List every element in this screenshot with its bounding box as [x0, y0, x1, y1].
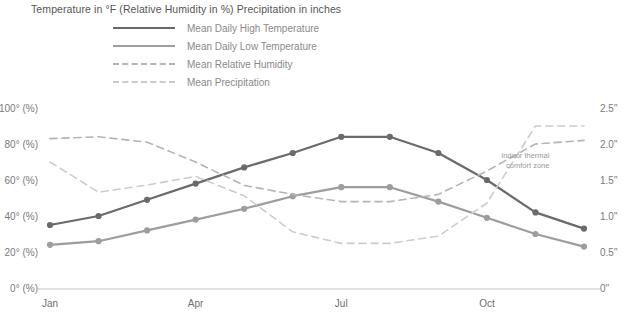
- data-point-high-temp[interactable]: [241, 164, 247, 170]
- chart-root: Temperature in °F (Relative Humidity in …: [0, 0, 635, 329]
- data-point-high-temp[interactable]: [144, 197, 150, 203]
- data-point-low-temp[interactable]: [241, 206, 247, 212]
- y-axis-left-tick-label: 60° (%): [5, 175, 38, 186]
- data-point-low-temp[interactable]: [387, 184, 393, 190]
- data-point-high-temp[interactable]: [581, 226, 587, 232]
- data-point-low-temp[interactable]: [338, 184, 344, 190]
- data-point-high-temp[interactable]: [47, 222, 53, 228]
- y-axis-right-tick-label: 0": [600, 283, 610, 294]
- data-point-low-temp[interactable]: [47, 242, 53, 248]
- data-point-high-temp[interactable]: [435, 150, 441, 156]
- annotation-indoor-thermal-comfort-zone: indoor thermal comfort zone: [487, 151, 549, 170]
- y-axis-right-tick-label: 2.0": [600, 139, 618, 150]
- data-point-low-temp[interactable]: [435, 199, 441, 205]
- data-point-high-temp[interactable]: [532, 209, 538, 215]
- y-axis-left-tick-label: 40° (%): [5, 211, 38, 222]
- y-axis-left-tick-label: 0° (%): [10, 283, 38, 294]
- annotation-line-1: indoor thermal: [487, 151, 549, 161]
- data-point-high-temp[interactable]: [193, 181, 199, 187]
- y-axis-right-tick-label: 1.0": [600, 211, 618, 222]
- data-point-high-temp[interactable]: [338, 134, 344, 140]
- data-point-high-temp[interactable]: [387, 134, 393, 140]
- data-point-high-temp[interactable]: [290, 150, 296, 156]
- x-axis-tick-label: Jul: [335, 298, 348, 309]
- data-point-low-temp[interactable]: [193, 217, 199, 223]
- data-point-low-temp[interactable]: [484, 215, 490, 221]
- series-line-precipitation: [50, 126, 584, 243]
- data-point-high-temp[interactable]: [95, 213, 101, 219]
- x-axis-tick-label: Jan: [42, 298, 58, 309]
- x-axis-tick-label: Apr: [188, 298, 204, 309]
- y-axis-right-tick-label: 0.5": [600, 247, 618, 258]
- y-axis-left-tick-label: 100° (%): [0, 103, 38, 114]
- data-point-low-temp[interactable]: [581, 244, 587, 250]
- x-axis-tick-label: Oct: [479, 298, 495, 309]
- y-axis-left-tick-label: 80° (%): [5, 139, 38, 150]
- annotation-line-2: comfort zone: [487, 161, 549, 171]
- y-axis-right-tick-label: 1.5": [600, 175, 618, 186]
- data-point-low-temp[interactable]: [532, 231, 538, 237]
- data-point-low-temp[interactable]: [144, 227, 150, 233]
- y-axis-left-tick-label: 20° (%): [5, 247, 38, 258]
- data-point-low-temp[interactable]: [95, 238, 101, 244]
- data-point-high-temp[interactable]: [484, 177, 490, 183]
- y-axis-right-tick-label: 2.5": [600, 103, 618, 114]
